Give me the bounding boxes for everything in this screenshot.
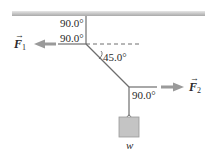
force-label-f1: →F1 xyxy=(14,38,26,52)
angle-label-upper-left: 90.0° xyxy=(60,33,84,44)
angle-label-top: 90.0° xyxy=(60,18,84,29)
angle-label-lower-right: 90.0° xyxy=(132,90,156,101)
weight-label: w xyxy=(126,139,133,151)
ceiling xyxy=(12,11,205,16)
f2-arrow-icon xyxy=(161,83,184,92)
vector-arrow-icon: → xyxy=(190,74,199,83)
force-label-f2: →F2 xyxy=(189,81,201,95)
angle-label-diagonal: 45.0° xyxy=(103,52,127,63)
f1-arrow-icon xyxy=(34,40,56,49)
tension-diagram: 90.0° 90.0° 45.0° 90.0° →F1 →F2 w xyxy=(0,0,212,157)
diagram-canvas xyxy=(0,0,212,157)
weight-box xyxy=(119,117,139,137)
vector-arrow-icon: → xyxy=(15,31,24,40)
